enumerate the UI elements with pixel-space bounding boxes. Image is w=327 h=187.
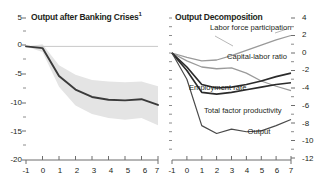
series-label-output-text: Output bbox=[248, 127, 271, 136]
series-label-total-factor-productivity-text: Total factor productivity bbox=[204, 106, 282, 115]
y-minor-ticks-right-left-edge bbox=[169, 18, 172, 149]
series-label-capital-labor-ratio: Capital-labor ratio bbox=[227, 53, 301, 61]
series-label-output: Output bbox=[239, 128, 279, 136]
plot-svg-left bbox=[0, 0, 164, 187]
chart-panel-output-after-banking-crises: Output after Banking Crises1 5 0 -5 -10 … bbox=[0, 0, 164, 187]
series-label-employment-rate-text: Employment rate bbox=[189, 83, 246, 92]
y-major-ticks-right bbox=[291, 18, 295, 158]
series-label-capital-labor-ratio-text: Capital-labor ratio bbox=[227, 52, 287, 61]
confidence-band-area bbox=[26, 44, 158, 125]
series-line-output bbox=[172, 53, 291, 134]
y-major-ticks-left bbox=[22, 18, 26, 160]
chart-panel-output-decomposition: Output Decomposition 4 2 0 -2 -4 -6 -8 -… bbox=[163, 0, 327, 187]
series-label-employment-rate: Employment rate bbox=[189, 84, 243, 92]
series-label-labor-force-participation: Labor force participation bbox=[210, 24, 272, 32]
series-label-labor-force-participation-text: Labor force participation bbox=[210, 23, 291, 32]
figure-container: Output after Banking Crises1 5 0 -5 -10 … bbox=[0, 0, 327, 187]
series-label-total-factor-productivity: Total factor productivity bbox=[204, 107, 298, 115]
y-minor-ticks-left bbox=[23, 31, 26, 145]
